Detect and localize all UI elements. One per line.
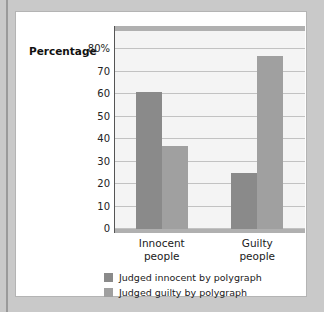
category-label: Innocentpeople (112, 237, 212, 262)
bar-innocent-judgement (136, 92, 162, 229)
legend-item: Judged guilty by polygraph (104, 286, 304, 299)
bar-innocent-judgement (231, 173, 257, 229)
legend-label: Judged innocent by polygraph (119, 272, 262, 283)
chart-page: Percentage 01020304050607080% Innocentpe… (0, 0, 324, 312)
legend-label: Judged guilty by polygraph (119, 287, 247, 298)
x-axis-categories: InnocentpeopleGuiltypeople (114, 237, 305, 269)
y-tick-label: 60 (66, 89, 110, 99)
legend-item: Judged innocent by polygraph (104, 271, 304, 284)
chart-legend: Judged innocent by polygraphJudged guilt… (104, 271, 304, 301)
page-left-rule (6, 0, 8, 312)
bar-guilty-judgement (162, 146, 188, 229)
chart-card: Percentage 01020304050607080% Innocentpe… (15, 11, 307, 297)
plot-area (114, 26, 305, 233)
bar-guilty-judgement (257, 56, 283, 229)
category-label: Guiltypeople (207, 237, 307, 262)
legend-swatch (104, 273, 113, 282)
y-tick-label: 0 (66, 224, 110, 234)
y-tick-label: 80% (66, 44, 110, 54)
y-tick-label: 30 (66, 157, 110, 167)
legend-swatch (104, 288, 113, 297)
y-tick-label: 20 (66, 179, 110, 189)
bar-chart: Percentage 01020304050607080% Innocentpe… (16, 12, 308, 298)
gridline (114, 48, 305, 49)
y-axis-line (114, 26, 115, 233)
plot-top-band (114, 26, 305, 31)
y-tick-label: 10 (66, 202, 110, 212)
y-tick-label: 50 (66, 112, 110, 122)
plot-baseline-band (114, 229, 305, 233)
y-axis-ticks: 01020304050607080% (16, 26, 110, 233)
y-tick-label: 40 (66, 134, 110, 144)
y-tick-label: 70 (66, 67, 110, 77)
